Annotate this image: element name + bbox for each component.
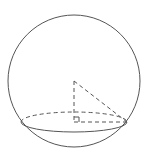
sphere-diagram [0,0,148,162]
right-angle-marker [74,117,79,122]
slant-line [74,81,127,122]
diagram-canvas [0,0,148,162]
section-front-arc [21,122,127,132]
